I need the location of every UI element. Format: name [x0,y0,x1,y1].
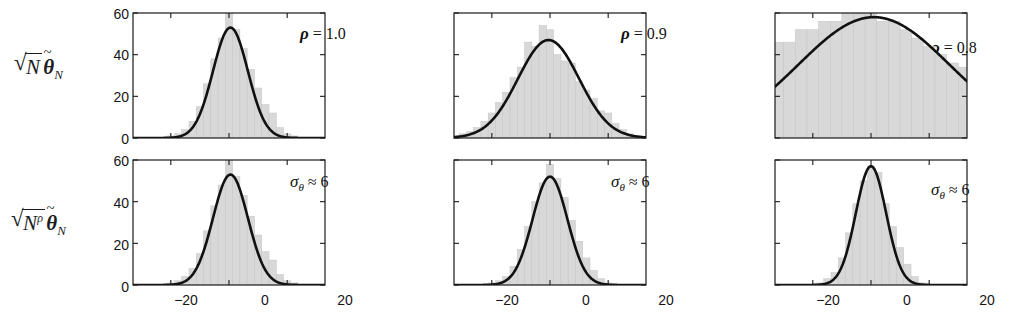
histogram-bar [568,63,575,138]
histogram-bar [772,42,784,138]
histogram-bar [539,183,546,285]
histogram-bar [860,181,867,285]
histogram-bar [842,13,854,138]
histogram-bars [167,160,298,285]
histogram-bar [561,61,568,138]
histogram-bars [488,164,612,285]
panel-top-left [133,13,325,138]
histogram-bar [947,63,959,138]
histogram-bar [912,38,924,138]
histogram-bars [452,26,641,139]
histogram-bar [935,55,947,138]
histogram-bar [784,42,796,138]
histogram-bar [830,21,842,138]
histogram-bar [532,46,539,138]
plot-surface [0,0,1021,327]
figure-container: √N~θN √Nρ~θN 60 40 20 0 60 40 20 0 −20 0… [0,0,1021,327]
histogram-bars [816,166,925,285]
histogram-bars [167,13,298,138]
histogram-bar [233,177,240,285]
histogram-bar [546,30,553,138]
histogram-bar [867,166,874,285]
histogram-bar [218,185,225,285]
histogram-bar [888,21,900,138]
panel-bottom-middle [454,160,646,285]
histogram-bar [575,82,582,138]
panel-bottom-left [133,160,325,285]
histogram-bar [877,21,889,138]
histogram-bar [865,13,877,138]
histogram-bar [795,30,807,138]
panel-bottom-right [775,160,967,285]
panel-top-middle [452,13,646,138]
panel-top-right [772,13,970,138]
histogram-bar [233,30,240,138]
histogram-bar [554,55,561,138]
histogram-bar [218,38,225,138]
histogram-bars [772,13,970,138]
histogram-bar [900,30,912,138]
histogram-bar [923,46,935,138]
histogram-bar [546,164,553,285]
histogram-bar [854,13,866,138]
